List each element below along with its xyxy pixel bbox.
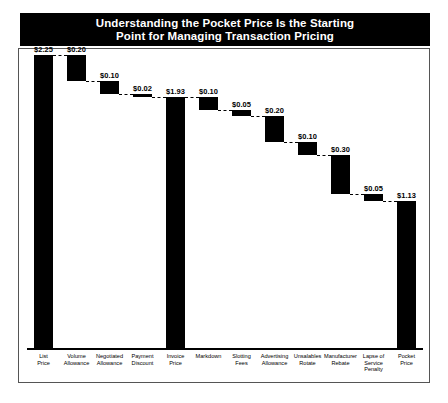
value-label-list-price: $2.25 [27, 45, 60, 54]
chart-title-line-2: Point for Managing Transaction Pricing [116, 30, 334, 43]
x-label-payment-discount: Payment Discount [126, 353, 159, 366]
value-label-unsalables-rotate: $0.10 [291, 132, 324, 141]
x-label-manufacturer-rebate: Manufacturer Rebate [324, 353, 357, 366]
x-label-lapse-of-service-penalty: Lapse of Service Penalty [357, 353, 390, 373]
value-label-volume-allowance: $0.20 [60, 45, 93, 54]
chart-title-banner: Understanding the Pocket Price Is the St… [20, 13, 430, 46]
connector-line [119, 94, 132, 96]
bar-advertising-allowance [265, 116, 285, 142]
connector-line [317, 155, 330, 157]
x-label-negotiated-allowance: Negotiated Allowance [93, 353, 126, 366]
value-label-negotiated-allowance: $0.10 [93, 71, 126, 80]
bar-list-price [34, 55, 54, 348]
plot-area: $2.25$0.20$0.10$0.02$1.93$0.10$0.05$0.20… [27, 55, 423, 348]
value-label-lapse-of-service-penalty: $0.05 [357, 184, 390, 193]
waterfall-chart-figure: Understanding the Pocket Price Is the St… [18, 13, 432, 385]
x-label-advertising-allowance: Advertising Allowance [258, 353, 291, 366]
value-label-invoice-price: $1.93 [159, 87, 192, 96]
value-label-slotting-fees: $0.05 [225, 100, 258, 109]
connector-line [383, 201, 396, 203]
connector-line [152, 97, 165, 99]
value-label-advertising-allowance: $0.20 [258, 106, 291, 115]
x-label-markdown: Markdown [192, 353, 225, 360]
category-axis-labels: List PriceVolume AllowanceNegotiated All… [27, 353, 423, 383]
connector-line [251, 116, 264, 118]
x-label-unsalables-rotate: Unsalables Rotate [291, 353, 324, 366]
bar-invoice-price [166, 97, 186, 348]
x-label-volume-allowance: Volume Allowance [60, 353, 93, 366]
value-label-payment-discount: $0.02 [126, 84, 159, 93]
value-label-markdown: $0.10 [192, 87, 225, 96]
x-label-list-price: List Price [27, 353, 60, 366]
bar-markdown [199, 97, 219, 110]
category-axis-line [27, 348, 423, 350]
connector-line [86, 81, 99, 83]
x-label-slotting-fees: Slotting Fees [225, 353, 258, 366]
connector-line [350, 194, 363, 196]
value-label-pocket-price: $1.13 [390, 191, 423, 200]
bar-manufacturer-rebate [331, 155, 351, 194]
bar-payment-discount [133, 94, 153, 97]
x-label-invoice-price: Invoice Price [159, 353, 192, 366]
connector-line [218, 110, 231, 112]
connector-line [53, 55, 66, 57]
bar-pocket-price [397, 201, 417, 348]
connector-line [284, 142, 297, 144]
value-label-manufacturer-rebate: $0.30 [324, 145, 357, 154]
bar-lapse-of-service-penalty [364, 194, 384, 201]
plot-frame: $2.25$0.20$0.10$0.02$1.93$0.10$0.05$0.20… [18, 48, 430, 383]
connector-line [185, 97, 198, 99]
bar-negotiated-allowance [100, 81, 120, 94]
bar-unsalables-rotate [298, 142, 318, 155]
chart-title-line-1: Understanding the Pocket Price Is the St… [96, 17, 354, 30]
bar-volume-allowance [67, 55, 87, 81]
bar-slotting-fees [232, 110, 252, 117]
x-label-pocket-price: Pocket Price [390, 353, 423, 366]
